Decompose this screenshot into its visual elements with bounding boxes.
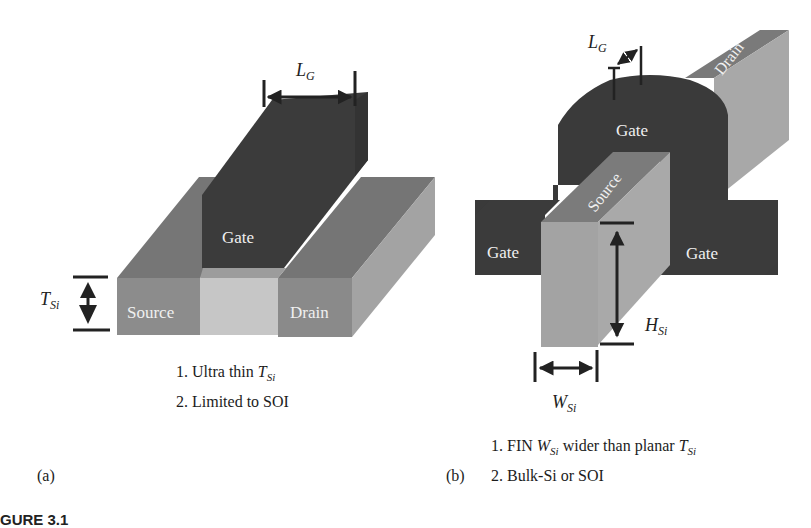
note-sub: Si [550, 445, 559, 457]
panel-a-note-1: 1. Ultra thin TSi [176, 363, 275, 381]
gate-right-block [655, 200, 778, 275]
source-fin-front [541, 222, 598, 347]
source-label-a: Source [127, 303, 174, 322]
panel-b-tag: (b) [446, 467, 465, 485]
panel-a-tag: (a) [37, 467, 55, 485]
hsi-label: HSi [644, 315, 667, 338]
note-sub: Si [267, 371, 276, 383]
drain-label-a: Drain [290, 303, 329, 322]
gate-label-b-left: Gate [487, 243, 519, 262]
panel-a-planar-device [73, 71, 435, 337]
note-text: wider than planar [559, 437, 679, 454]
note-var: T [679, 437, 688, 454]
note-text: 1. FIN [491, 437, 537, 454]
panel-b-finfet-device [475, 30, 789, 382]
figure-caption-partial: GURE 3.1 [0, 511, 68, 528]
note-text: 2. Bulk-Si or SOI [491, 467, 604, 484]
gate-label-a: Gate [222, 228, 254, 247]
channel-top-face [200, 268, 286, 278]
lg-label-b: LG [587, 32, 607, 55]
wsi-label: WSi [552, 392, 576, 415]
panel-a-note-2: 2. Limited to SOI [176, 393, 289, 411]
tsi-label: TSi [40, 289, 59, 312]
note-var: W [537, 437, 550, 454]
note-var: T [258, 363, 267, 380]
gate-label-b-top: Gate [616, 121, 648, 140]
note-text: 2. Limited to SOI [176, 393, 289, 410]
panel-b-note-1: 1. FIN WSi wider than planar TSi [491, 437, 696, 455]
channel-front-face [200, 278, 278, 335]
note-sub: Si [688, 445, 697, 457]
wsi-dimension [535, 350, 597, 382]
note-text: 1. Ultra thin [176, 363, 258, 380]
lg-label-a: LG [295, 60, 315, 83]
panel-b-note-2: 2. Bulk-Si or SOI [491, 467, 604, 485]
gate-label-b-right: Gate [686, 244, 718, 263]
gate-slab-side [355, 92, 368, 176]
tsi-dimension [73, 277, 110, 330]
